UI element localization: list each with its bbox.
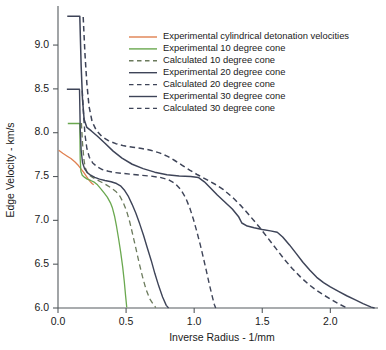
- chart-figure: 6.06.57.07.58.08.59.00.00.51.01.52.0 Exp…: [0, 0, 386, 350]
- y-tick-label: 8.0: [34, 125, 49, 137]
- y-tick-label: 9.0: [34, 38, 49, 50]
- x-tick-label: 0.5: [119, 315, 134, 327]
- legend-label-5: Experimental 30 degree cone: [163, 90, 285, 101]
- y-tick-label: 6.0: [34, 301, 49, 313]
- chart-legend: Experimental cylindrical detonation velo…: [129, 30, 349, 112]
- y-tick-label: 6.5: [34, 257, 49, 269]
- y-tick-label: 7.0: [34, 213, 49, 225]
- series-line-3: [67, 89, 169, 308]
- y-axis-title: Edge Velocity - km/s: [4, 122, 16, 217]
- series-line-2: [81, 123, 155, 308]
- legend-label-4: Calculated 20 degree cone: [163, 78, 275, 89]
- x-axis-title: Inverse Radius - 1/mm: [169, 331, 275, 343]
- y-tick-label: 8.5: [34, 82, 49, 94]
- legend-label-6: Calculated 30 degree cone: [163, 102, 275, 113]
- series-line-4: [82, 91, 215, 308]
- y-tick-label: 7.5: [34, 169, 49, 181]
- series-line-1: [68, 124, 127, 308]
- legend-label-2: Calculated 10 degree cone: [163, 54, 275, 65]
- x-tick-label: 1.5: [255, 315, 270, 327]
- legend-label-1: Experimental 10 degree cone: [163, 42, 285, 53]
- legend-label-3: Experimental 20 degree cone: [163, 66, 285, 77]
- legend-label-0: Experimental cylindrical detonation velo…: [163, 30, 349, 41]
- x-tick-label: 1.0: [187, 315, 202, 327]
- x-tick-label: 2.0: [323, 315, 338, 327]
- x-tick-label: 0.0: [51, 315, 66, 327]
- edge-velocity-vs-inverse-radius-chart: 6.06.57.07.58.08.59.00.00.51.01.52.0 Exp…: [0, 0, 386, 350]
